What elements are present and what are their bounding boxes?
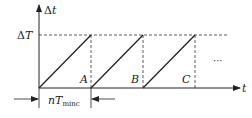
period-label: nTminc xyxy=(48,94,80,108)
x-axis-label: t xyxy=(242,82,247,95)
point-B-label: B xyxy=(130,73,139,86)
y-axis-label: Δt xyxy=(44,4,57,17)
delta-T-label: ΔT xyxy=(17,29,34,42)
sawtooth-diagram: Δt ΔT t A B C ··· nTminc xyxy=(0,0,252,118)
point-A-label: A xyxy=(79,73,88,86)
ellipsis: ··· xyxy=(213,55,223,66)
point-C-label: C xyxy=(182,73,191,86)
